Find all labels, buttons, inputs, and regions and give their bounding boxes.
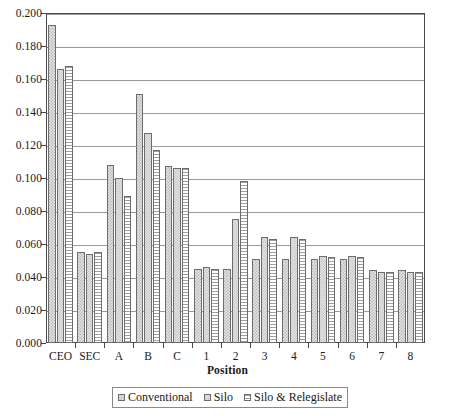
bar (311, 259, 319, 343)
bar (65, 66, 73, 343)
x-tick-mark (250, 343, 251, 348)
bar (223, 269, 231, 343)
bar-group (367, 13, 396, 343)
bar (398, 270, 406, 343)
bar (94, 252, 102, 343)
y-tick-label: 0.040 (0, 272, 42, 283)
x-tick-mark (104, 343, 105, 348)
bar-group (338, 13, 367, 343)
bar (194, 269, 202, 343)
bar (107, 165, 115, 343)
bar (415, 272, 423, 343)
bar (124, 196, 132, 343)
x-tick-mark (308, 343, 309, 348)
bar-group (133, 13, 162, 343)
x-tick-mark (163, 343, 164, 348)
bar-group (279, 13, 308, 343)
legend-item: Silo (204, 390, 233, 404)
bar (340, 259, 348, 343)
y-tick-label: 0.120 (0, 140, 42, 151)
bar-group (163, 13, 192, 343)
bar (232, 219, 240, 343)
y-tick-label: 0.020 (0, 305, 42, 316)
bar-group (308, 13, 337, 343)
bar (173, 168, 181, 343)
bar-group (46, 13, 75, 343)
bar (165, 166, 173, 343)
legend-swatch-icon (118, 394, 125, 401)
y-tick-label: 0.060 (0, 239, 42, 250)
y-tick-label: 0.080 (0, 206, 42, 217)
bar-groups (46, 13, 425, 343)
y-tick-label: 0.100 (0, 173, 42, 184)
bar (369, 270, 377, 343)
legend-label: Conventional (128, 390, 193, 404)
legend-item: Conventional (118, 390, 193, 404)
y-tick-label: 0.200 (0, 8, 42, 19)
x-tick-mark (279, 343, 280, 348)
bar-chart: 0.0000.0200.0400.0600.0800.1000.1200.140… (0, 0, 455, 416)
x-axis-title: Position (0, 364, 455, 376)
x-tick-mark (133, 343, 134, 348)
bar (144, 133, 152, 343)
x-tick-mark (367, 343, 368, 348)
bar (407, 272, 415, 343)
legend-item: Silo & Relegislate (244, 390, 342, 404)
y-tick-label: 0.160 (0, 74, 42, 85)
bar (378, 272, 386, 343)
y-tick-label: 0.140 (0, 107, 42, 118)
bar-group (250, 13, 279, 343)
bar (319, 256, 327, 343)
bar (357, 257, 365, 343)
bar (261, 237, 269, 343)
y-tick-label: 0.000 (0, 338, 42, 349)
bar-group (75, 13, 104, 343)
bar (386, 272, 394, 343)
chart-legend: ConventionalSiloSilo & Relegislate (112, 387, 348, 408)
x-tick-mark (221, 343, 222, 348)
bar (282, 259, 290, 343)
bar (153, 150, 161, 343)
x-tick-mark (75, 343, 76, 348)
bar (348, 256, 356, 343)
bar (328, 257, 336, 343)
bar-group (221, 13, 250, 343)
x-tick-mark (192, 343, 193, 348)
bar (211, 269, 219, 343)
bar (240, 181, 248, 343)
bar (182, 168, 190, 343)
bar-group (192, 13, 221, 343)
bar (77, 252, 85, 343)
legend-label: Silo & Relegislate (254, 390, 342, 404)
bar (290, 237, 298, 343)
bar (57, 69, 65, 343)
bar (86, 254, 94, 343)
x-tick-mark (338, 343, 339, 348)
x-tick-label: 8 (390, 350, 430, 363)
bar (203, 267, 211, 343)
bar (299, 239, 307, 343)
x-tick-mark (396, 343, 397, 348)
bar (48, 25, 56, 343)
bar (136, 94, 144, 343)
bar-group (396, 13, 425, 343)
bar (115, 178, 123, 343)
legend-swatch-icon (244, 394, 251, 401)
legend-label: Silo (214, 390, 233, 404)
y-tick-label: 0.180 (0, 41, 42, 52)
bar (252, 259, 260, 343)
legend-swatch-icon (204, 394, 211, 401)
bar-group (104, 13, 133, 343)
bar (269, 239, 277, 343)
